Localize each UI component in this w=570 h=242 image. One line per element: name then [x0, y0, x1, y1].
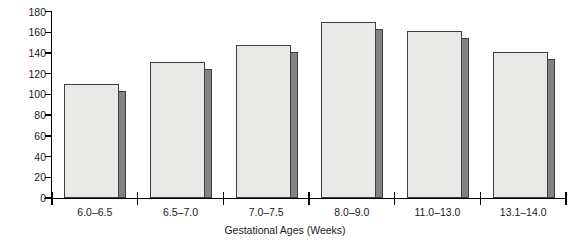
- bar-side-face: [375, 29, 383, 198]
- bar-front-face: [321, 22, 376, 198]
- x-axis-tick-label: 11.0–13.0: [415, 206, 461, 218]
- x-axis-tick-mark: [308, 192, 309, 205]
- x-axis-title: Gestational Ages (Weeks): [0, 224, 570, 236]
- y-axis-tick-mark: [45, 52, 52, 53]
- bar-chart: Beats/Min. 020406080100120140160180 6.0–…: [0, 0, 570, 242]
- x-axis-tick-mark: [223, 192, 224, 205]
- bar-front-face: [236, 45, 291, 198]
- x-axis-tick-mark: [480, 192, 481, 205]
- x-axis-tick-label: 7.0–7.5: [249, 206, 284, 218]
- bar-side-face: [204, 69, 212, 198]
- bar-side-face: [290, 52, 298, 198]
- x-axis-tick-mark: [565, 192, 566, 205]
- x-axis-line: [44, 198, 566, 199]
- bar-front-face: [64, 84, 119, 198]
- x-axis-tick-mark: [394, 192, 395, 205]
- bar-side-face: [118, 91, 126, 198]
- bar-front-face: [407, 31, 462, 198]
- y-axis-tick-mark: [45, 177, 52, 178]
- bar-side-face: [461, 38, 469, 198]
- x-axis-tick-label: 8.0–9.0: [334, 206, 369, 218]
- x-axis-tick-label: 6.5–7.0: [163, 206, 198, 218]
- y-axis-tick-mark: [45, 114, 52, 115]
- x-axis-tick-labels: 6.0–6.56.5–7.07.0–7.58.0–9.011.0–13.013.…: [0, 206, 570, 222]
- y-axis-tick-mark: [45, 11, 52, 12]
- y-axis-tick-mark: [45, 135, 52, 136]
- x-axis-tick-mark: [137, 192, 138, 205]
- x-axis-tick-mark: [51, 192, 52, 205]
- y-axis-tick-mark: [45, 32, 52, 33]
- bar-side-face: [547, 59, 555, 198]
- x-axis-tick-label: 6.0–6.5: [77, 206, 112, 218]
- y-axis-tick-mark: [45, 94, 52, 95]
- y-axis-tick-mark: [45, 156, 52, 157]
- x-axis-tick-label: 13.1–14.0: [500, 206, 547, 218]
- bar-front-face: [493, 52, 548, 198]
- y-axis-tick-mark: [45, 73, 52, 74]
- bar-front-face: [150, 62, 205, 198]
